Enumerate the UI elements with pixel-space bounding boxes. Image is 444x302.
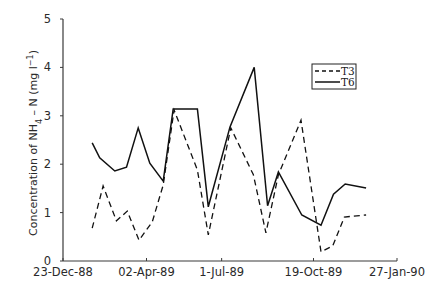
x-tick-label: 27-Jan-90 <box>369 265 425 279</box>
data-series <box>92 67 366 251</box>
y-tick-label: 5 <box>44 12 51 26</box>
y-tick-label: 3 <box>44 109 51 123</box>
y-tick-label: 4 <box>44 60 51 74</box>
x-tick-label: 19-Oct-89 <box>285 265 343 279</box>
y-ticks: 012345 <box>44 12 63 268</box>
y-tick-label: 1 <box>44 206 51 220</box>
x-tick-label: 02-Apr-89 <box>118 265 174 279</box>
y-axis-label: Concentration of NH4 – N (mg l−1) <box>26 50 44 236</box>
y-tick-label: 2 <box>44 157 51 171</box>
x-tick-label: 1-Jul-89 <box>199 265 244 279</box>
line-chart: Concentration of NH4 – N (mg l−1) 012345… <box>0 0 444 302</box>
legend: T3 T6 <box>312 64 356 89</box>
axes <box>63 19 397 261</box>
legend-label-t6: T6 <box>341 76 355 88</box>
series-line-t6 <box>92 67 366 225</box>
y-axis-title: Concentration of NH4 – N (mg l−1) <box>26 50 44 236</box>
x-tick-label: 23-Dec-88 <box>33 265 93 279</box>
